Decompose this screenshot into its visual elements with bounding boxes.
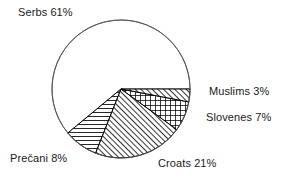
pie-chart-figure: Serbs 61% Muslims 3% Slovenes 7% Prečani… xyxy=(0,0,285,182)
slice-label-croats: Croats 21% xyxy=(158,157,216,169)
slice-label-muslims: Muslims 3% xyxy=(209,85,269,97)
slice-label-slovenes: Slovenes 7% xyxy=(206,111,271,123)
slice-label-serbs: Serbs 61% xyxy=(18,6,73,18)
pie-slices xyxy=(0,0,190,158)
slice-label-precani: Prečani 8% xyxy=(10,152,67,164)
